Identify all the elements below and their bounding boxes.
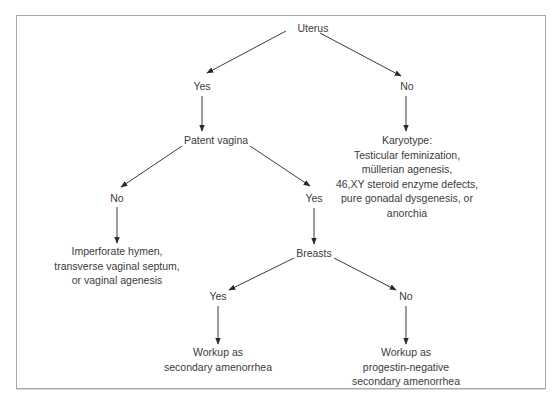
edge-vagina-no (121, 146, 182, 187)
node-workup-secondary: Workup as secondary amenorrhea (164, 345, 272, 374)
node-uterus-yes: Yes (193, 79, 210, 94)
node-obstruction: Imperforate hymen, transverse vaginal se… (54, 244, 179, 288)
node-breasts-yes: Yes (209, 289, 226, 304)
node-vagina-yes: Yes (305, 191, 322, 206)
edge-breasts-no (334, 258, 396, 290)
obstruction-line: Imperforate hymen, (54, 244, 179, 259)
obstruction-line: or vaginal agenesis (54, 273, 179, 288)
node-karyotype: Karyotype: Testicular feminization, müll… (336, 133, 478, 220)
karyotype-line: 46,XY steroid enzyme defects, (336, 177, 478, 192)
edge-uterus-yes (207, 31, 286, 73)
karyotype-line: Testicular feminization, (336, 148, 478, 163)
karyotype-line: pure gonadal dysgenesis, or (336, 191, 478, 206)
node-patent-vagina: Patent vagina (184, 133, 248, 148)
node-workup-progestin-negative: Workup as progestin-negative secondary a… (352, 345, 460, 389)
node-breasts-no: No (399, 289, 412, 304)
edge-breasts-yes (229, 258, 294, 290)
edge-uterus-no (320, 33, 401, 76)
workup-progestin-line: Workup as (352, 345, 460, 360)
node-breasts: Breasts (296, 246, 332, 261)
workup-progestin-line: progestin-negative (352, 360, 460, 375)
workup-secondary-line: secondary amenorrhea (164, 360, 272, 375)
karyotype-line: Karyotype: (336, 133, 478, 148)
workup-progestin-line: secondary amenorrhea (352, 374, 460, 389)
node-vagina-no: No (110, 191, 123, 206)
node-uterus-no: No (400, 79, 413, 94)
workup-secondary-line: Workup as (164, 345, 272, 360)
karyotype-line: müllerian agenesis, (336, 162, 478, 177)
obstruction-line: transverse vaginal septum, (54, 259, 179, 274)
karyotype-line: anorchia (336, 206, 478, 221)
edge-vagina-yes (250, 146, 310, 186)
node-uterus: Uterus (298, 21, 329, 36)
